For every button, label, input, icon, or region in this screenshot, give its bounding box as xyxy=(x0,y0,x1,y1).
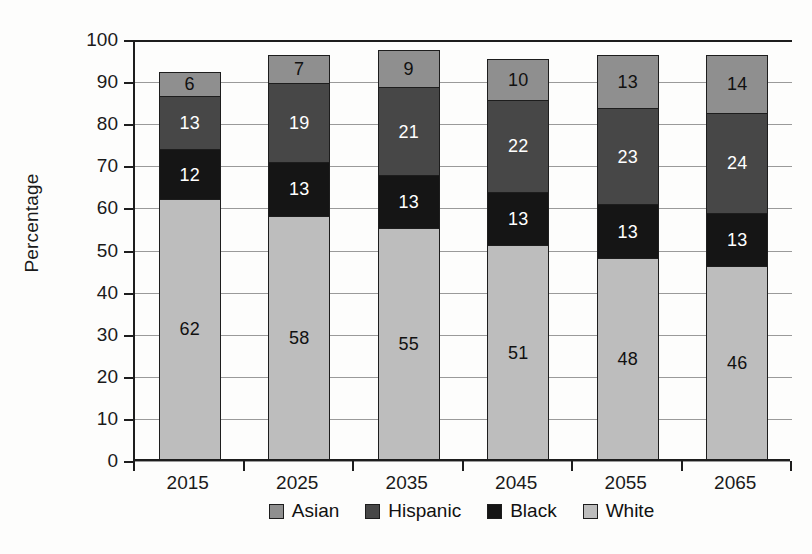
bar-2035[interactable]: 9211355 xyxy=(378,50,440,459)
bar-2025[interactable]: 7191358 xyxy=(268,55,330,459)
y-tick-label-10: 10 xyxy=(38,408,118,430)
bar-2015[interactable]: 6131262 xyxy=(159,72,221,460)
y-tick-label-70: 70 xyxy=(38,155,118,177)
bar-segment-value: 19 xyxy=(289,114,310,132)
y-tick-mark-20 xyxy=(124,377,133,379)
bar-segment-value: 51 xyxy=(508,344,529,362)
bar-segment-2045-black[interactable]: 13 xyxy=(487,192,549,247)
bar-segment-value: 14 xyxy=(727,75,748,93)
legend-item-white[interactable]: White xyxy=(583,500,655,522)
y-tick-label-0: 0 xyxy=(38,450,118,472)
bar-segment-value: 13 xyxy=(727,231,748,249)
bar-segment-2055-hispanic[interactable]: 23 xyxy=(597,108,659,205)
bar-segment-value: 10 xyxy=(508,71,529,89)
legend-label: Black xyxy=(510,500,556,522)
bar-segment-2025-white[interactable]: 58 xyxy=(268,216,330,460)
x-tick-mark-1 xyxy=(243,461,245,471)
y-tick-label-80: 80 xyxy=(38,113,118,135)
gridline-10 xyxy=(135,419,792,420)
legend-item-black[interactable]: Black xyxy=(487,500,556,522)
bar-segment-2045-asian[interactable]: 10 xyxy=(487,59,549,101)
gridline-60 xyxy=(135,208,792,209)
bar-segment-value: 7 xyxy=(294,60,304,78)
bar-segment-value: 46 xyxy=(727,354,748,372)
bar-segment-2065-hispanic[interactable]: 24 xyxy=(706,113,768,214)
legend-item-asian[interactable]: Asian xyxy=(269,500,340,522)
y-tick-label-40: 40 xyxy=(38,282,118,304)
bar-segment-value: 21 xyxy=(398,123,419,141)
bar-segment-2015-white[interactable]: 62 xyxy=(159,199,221,460)
y-tick-mark-100 xyxy=(124,40,133,42)
y-tick-mark-10 xyxy=(124,419,133,421)
x-tick-mark-4 xyxy=(571,461,573,471)
bar-segment-2065-black[interactable]: 13 xyxy=(706,213,768,268)
bar-segment-value: 24 xyxy=(727,154,748,172)
bar-segment-value: 13 xyxy=(289,180,310,198)
bar-segment-value: 6 xyxy=(185,75,195,93)
x-tick-mark-2 xyxy=(352,461,354,471)
bar-segment-value: 13 xyxy=(617,73,638,91)
gridline-100 xyxy=(135,40,792,42)
gridline-20 xyxy=(135,377,792,378)
legend-label: Hispanic xyxy=(388,500,461,522)
legend-swatch-icon-hispanic xyxy=(365,504,380,519)
bar-segment-value: 13 xyxy=(617,223,638,241)
x-tick-mark-3 xyxy=(462,461,464,471)
x-tick-label-2015: 2015 xyxy=(133,472,243,494)
y-tick-mark-60 xyxy=(124,208,133,210)
y-tick-label-20: 20 xyxy=(38,366,118,388)
plot-area: 6131262719135892113551022135113231348142… xyxy=(133,40,790,461)
bar-segment-value: 13 xyxy=(398,193,419,211)
legend-label: Asian xyxy=(292,500,340,522)
bar-segment-2025-hispanic[interactable]: 19 xyxy=(268,83,330,163)
bar-2055[interactable]: 13231348 xyxy=(597,55,659,459)
bar-segment-2035-asian[interactable]: 9 xyxy=(378,50,440,88)
y-tick-label-60: 60 xyxy=(38,197,118,219)
bar-segment-2025-asian[interactable]: 7 xyxy=(268,55,330,84)
x-tick-mark-6 xyxy=(790,461,792,471)
y-tick-label-50: 50 xyxy=(38,240,118,262)
x-tick-mark-5 xyxy=(681,461,683,471)
gridline-90 xyxy=(135,82,792,83)
bar-segment-value: 58 xyxy=(289,329,310,347)
gridline-30 xyxy=(135,335,792,336)
bar-segment-2055-white[interactable]: 48 xyxy=(597,258,659,460)
bar-segment-value: 22 xyxy=(508,137,529,155)
x-tick-label-2035: 2035 xyxy=(352,472,462,494)
bar-segment-value: 9 xyxy=(404,60,414,78)
y-tick-mark-90 xyxy=(124,82,133,84)
legend-item-hispanic[interactable]: Hispanic xyxy=(365,500,461,522)
legend: AsianHispanicBlackWhite xyxy=(133,500,790,522)
bar-segment-value: 48 xyxy=(617,350,638,368)
bar-segment-value: 12 xyxy=(179,166,200,184)
bar-segment-value: 55 xyxy=(398,335,419,353)
legend-swatch-icon-asian xyxy=(269,504,284,519)
bar-segment-2035-white[interactable]: 55 xyxy=(378,228,440,460)
bar-segment-2015-asian[interactable]: 6 xyxy=(159,72,221,97)
y-tick-label-100: 100 xyxy=(38,29,118,51)
bar-segment-2065-asian[interactable]: 14 xyxy=(706,55,768,114)
bar-2065[interactable]: 14241346 xyxy=(706,55,768,459)
bar-segment-2045-hispanic[interactable]: 22 xyxy=(487,100,549,193)
legend-swatch-icon-white xyxy=(583,504,598,519)
x-tick-label-2055: 2055 xyxy=(571,472,681,494)
bar-segment-2015-hispanic[interactable]: 13 xyxy=(159,96,221,151)
y-tick-mark-50 xyxy=(124,251,133,253)
stacked-bar-chart: Percentage 1009080706050403020100 613126… xyxy=(0,0,812,554)
y-tick-mark-30 xyxy=(124,335,133,337)
gridline-80 xyxy=(135,124,792,125)
x-tick-label-2025: 2025 xyxy=(242,472,352,494)
bar-segment-2035-hispanic[interactable]: 21 xyxy=(378,87,440,175)
bar-segment-2045-white[interactable]: 51 xyxy=(487,245,549,460)
bar-segment-2015-black[interactable]: 12 xyxy=(159,149,221,200)
bar-segment-2065-white[interactable]: 46 xyxy=(706,266,768,460)
bar-segment-2055-asian[interactable]: 13 xyxy=(597,55,659,110)
bar-segment-2025-black[interactable]: 13 xyxy=(268,162,330,217)
gridline-40 xyxy=(135,293,792,294)
bar-segment-2055-black[interactable]: 13 xyxy=(597,204,659,259)
y-tick-label-30: 30 xyxy=(38,324,118,346)
bar-2045[interactable]: 10221351 xyxy=(487,59,549,459)
legend-label: White xyxy=(606,500,655,522)
y-tick-mark-80 xyxy=(124,124,133,126)
bar-segment-2035-black[interactable]: 13 xyxy=(378,175,440,230)
